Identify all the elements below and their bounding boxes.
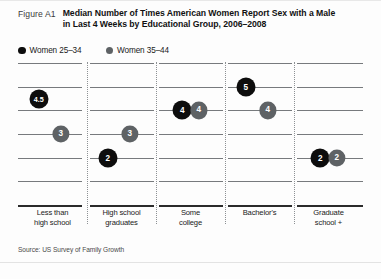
data-point-marker: 3 xyxy=(121,125,138,142)
filled-circle-icon xyxy=(106,47,114,55)
source-note: Source: US Survey of Family Growth xyxy=(18,246,124,253)
gridline xyxy=(18,205,82,207)
figure-header: Figure A1 Median Number of Times America… xyxy=(18,8,368,31)
data-point-marker: 3 xyxy=(52,125,69,142)
gridline xyxy=(228,205,292,207)
gridline xyxy=(228,63,292,64)
x-axis-label-line: graduates xyxy=(87,218,156,228)
gridline xyxy=(159,205,223,207)
legend-label: Women 35–44 xyxy=(117,46,169,55)
gridline xyxy=(159,87,223,88)
gridline xyxy=(297,87,364,88)
gridline xyxy=(159,158,223,159)
gridline xyxy=(90,110,154,111)
gridline xyxy=(18,110,82,111)
figure-container: Figure A1 Median Number of Times America… xyxy=(0,0,381,279)
x-axis-label-line: High school xyxy=(87,208,156,218)
gridline xyxy=(297,205,364,207)
gridline xyxy=(228,181,292,182)
x-axis-category-labels: Less thanhigh schoolHigh schoolgraduates… xyxy=(18,208,363,240)
data-point-marker: 2 xyxy=(98,148,117,167)
gridline xyxy=(90,181,154,182)
x-axis-label-4: Graduateschool + xyxy=(294,208,363,227)
x-axis-label-line: Bachelor's xyxy=(225,208,294,218)
data-point-marker: 4 xyxy=(173,101,192,120)
x-axis-label-2: Somecollege xyxy=(156,208,225,227)
gridline xyxy=(90,63,154,64)
data-point-marker: 4 xyxy=(259,102,276,119)
category-separator xyxy=(225,62,226,224)
x-axis-label-line: high school xyxy=(18,218,87,228)
figure-title-line-1: Median Number of Times American Women Re… xyxy=(63,8,336,19)
gridline xyxy=(159,181,223,182)
plot-area: 4.5245233442 xyxy=(18,63,363,205)
legend-label: Women 25–34 xyxy=(30,46,82,55)
x-axis-label-line: college xyxy=(156,218,225,228)
gridline xyxy=(18,63,82,64)
gridline xyxy=(18,134,82,135)
figure-label: Figure A1 xyxy=(18,8,56,19)
x-axis-label-3: Bachelor's xyxy=(225,208,294,218)
legend-item-women-35-44: Women 35–44 xyxy=(106,46,170,55)
bottom-rule xyxy=(0,262,381,263)
gridline xyxy=(90,87,154,88)
x-axis-label-1: High schoolgraduates xyxy=(87,208,156,227)
gridline xyxy=(228,158,292,159)
gridline xyxy=(297,110,364,111)
category-separator xyxy=(156,62,157,224)
data-point-marker: 4.5 xyxy=(29,89,48,108)
data-point-marker: 5 xyxy=(236,77,255,96)
gridline xyxy=(297,63,364,64)
category-separator xyxy=(87,62,88,224)
x-axis-label-line: Less than xyxy=(18,208,87,218)
chart-legend: Women 25–34 Women 35–44 xyxy=(18,46,193,55)
figure-title-line-2: in Last 4 Weeks by Educational Group, 20… xyxy=(63,19,336,30)
gridline xyxy=(18,158,82,159)
data-point-marker: 2 xyxy=(311,148,330,167)
gridline xyxy=(159,134,223,135)
gridline xyxy=(18,181,82,182)
x-axis-label-line: Some xyxy=(156,208,225,218)
filled-circle-icon xyxy=(18,47,26,55)
x-axis-label-line: Graduate xyxy=(294,208,363,218)
category-separator xyxy=(294,62,295,224)
gridline xyxy=(90,205,154,207)
gridline xyxy=(159,63,223,64)
gridline xyxy=(297,134,364,135)
x-axis-label-line: school + xyxy=(294,218,363,228)
legend-item-women-25-34: Women 25–34 xyxy=(18,46,82,55)
gridline xyxy=(18,87,82,88)
data-point-marker: 4 xyxy=(190,102,207,119)
x-axis-label-0: Less thanhigh school xyxy=(18,208,87,227)
data-point-marker: 2 xyxy=(328,149,345,166)
top-rule xyxy=(0,0,381,1)
gridline xyxy=(228,134,292,135)
gridline xyxy=(297,181,364,182)
